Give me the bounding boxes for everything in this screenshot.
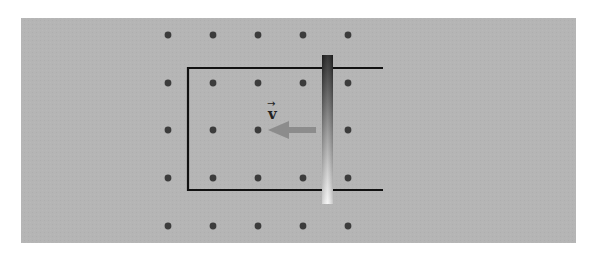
field-dot bbox=[210, 175, 217, 182]
field-dot bbox=[300, 80, 307, 87]
field-dot bbox=[210, 127, 217, 134]
field-dot bbox=[300, 32, 307, 39]
field-dot bbox=[345, 175, 352, 182]
field-dot bbox=[255, 223, 262, 230]
field-dot bbox=[210, 223, 217, 230]
field-dot bbox=[345, 80, 352, 87]
diagram-canvas: v → bbox=[0, 0, 592, 254]
field-dot bbox=[165, 223, 172, 230]
field-dot bbox=[165, 80, 172, 87]
field-dot bbox=[255, 127, 262, 134]
field-dot bbox=[300, 223, 307, 230]
field-dot bbox=[210, 80, 217, 87]
field-dot bbox=[345, 32, 352, 39]
field-dot bbox=[345, 127, 352, 134]
vector-arrow-mark: → bbox=[267, 98, 275, 109]
field-dot bbox=[210, 32, 217, 39]
field-dot bbox=[345, 223, 352, 230]
field-dot bbox=[165, 32, 172, 39]
field-dot bbox=[255, 80, 262, 87]
field-dot bbox=[255, 175, 262, 182]
field-dot bbox=[165, 127, 172, 134]
field-dot bbox=[165, 175, 172, 182]
sliding-bar bbox=[322, 55, 333, 204]
conducting-bar-shading bbox=[322, 55, 333, 204]
field-dot bbox=[255, 32, 262, 39]
field-dot bbox=[300, 175, 307, 182]
